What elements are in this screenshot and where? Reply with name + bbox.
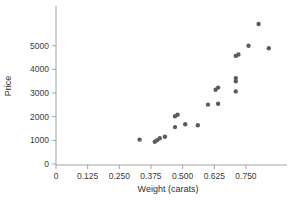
data-point xyxy=(175,113,179,117)
y-axis-ticks: 010002000300040005000 xyxy=(30,41,56,169)
data-point xyxy=(163,135,167,139)
data-point xyxy=(234,76,238,80)
x-axis: 00.1250.2500.3750.5000.6250.750 xyxy=(54,165,287,181)
x-tick-label: 0.625 xyxy=(204,171,226,181)
scatter-plot-figure: 010002000300040005000 00.1250.2500.3750.… xyxy=(0,0,292,210)
data-point xyxy=(137,137,141,141)
y-tick-label: 1000 xyxy=(30,135,49,145)
data-point xyxy=(196,123,200,127)
x-axis-title: Weight (carats) xyxy=(138,184,199,194)
data-point xyxy=(216,85,220,89)
y-tick-label: 2000 xyxy=(30,112,49,122)
data-point xyxy=(173,125,177,129)
data-point xyxy=(246,44,250,48)
data-point xyxy=(236,52,240,56)
y-tick-label: 4000 xyxy=(30,64,49,74)
y-tick-label: 3000 xyxy=(30,88,49,98)
y-tick-label: 5000 xyxy=(30,41,49,51)
x-axis-ticks: 00.1250.2500.3750.5000.6250.750 xyxy=(54,165,257,181)
x-tick-label: 0.125 xyxy=(77,171,99,181)
scatter-plot-canvas: 010002000300040005000 00.1250.2500.3750.… xyxy=(0,0,292,210)
y-axis-title: Price xyxy=(3,76,13,97)
data-point xyxy=(234,89,238,93)
data-point xyxy=(256,22,260,26)
data-point xyxy=(206,102,210,106)
data-points-layer xyxy=(137,22,271,144)
data-point xyxy=(267,46,271,50)
data-point xyxy=(216,102,220,106)
y-axis: 010002000300040005000 xyxy=(30,6,56,169)
x-tick-label: 0.250 xyxy=(109,171,131,181)
data-point xyxy=(158,136,162,140)
x-tick-label: 0.500 xyxy=(172,171,194,181)
data-point xyxy=(183,122,187,126)
x-tick-label: 0.750 xyxy=(235,171,257,181)
y-tick-label: 0 xyxy=(44,159,49,169)
x-tick-label: 0.375 xyxy=(140,171,162,181)
x-tick-label: 0 xyxy=(54,171,59,181)
